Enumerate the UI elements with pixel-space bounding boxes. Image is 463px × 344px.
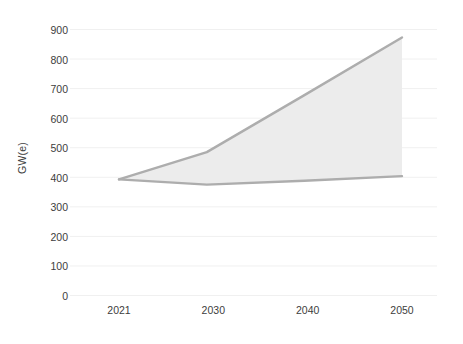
- chart-container: GW(e) 900 800 700 600 500 400 300 200 10…: [0, 0, 463, 344]
- x-tick-label: 2040: [278, 305, 338, 316]
- x-axis-tick-labels: 2021 2030 2040 2050: [0, 0, 463, 344]
- x-tick-label: 2021: [89, 305, 149, 316]
- x-tick-label: 2030: [183, 305, 243, 316]
- x-tick-label: 2050: [372, 305, 432, 316]
